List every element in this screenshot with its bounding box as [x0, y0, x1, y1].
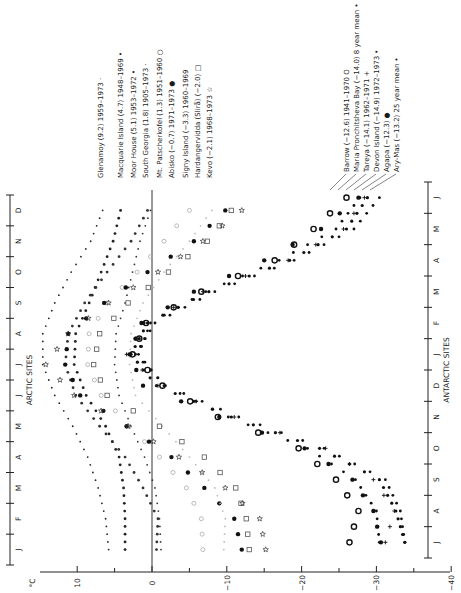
arctic-month-label: S [14, 300, 23, 305]
series-agapa [127, 195, 383, 544]
legend-item-antarctic: Ary-Mas (−13.2) 25 year mean • [393, 57, 401, 172]
arctic-month-label: J [14, 394, 23, 397]
x-tick-label: −30 [372, 575, 381, 591]
antarctic-month-label: D [432, 383, 441, 389]
legend-pointer [338, 174, 356, 190]
antarctic-month-label: A [432, 257, 441, 263]
antarctic-axis-title: ANTARCTIC SITES [442, 337, 451, 403]
arctic-month-label: N [14, 238, 23, 244]
arctic-month-label: F [14, 517, 23, 521]
antarctic-month-label: A [432, 508, 441, 514]
arctic-month-label: J [14, 548, 23, 551]
legend-item-antarctic: Maria Pronchitsheva Bay (−14.0) 8 year m… [353, 3, 361, 172]
series-tareya [125, 196, 397, 545]
arctic-month-label: J [14, 363, 23, 366]
legend-pointer [354, 174, 376, 190]
arctic-month-label: A [14, 330, 23, 336]
series-moor-house [64, 209, 160, 551]
arctic-axis-title: ARCTIC SITES [25, 354, 34, 405]
temperature-chart: 100−10−20−30−40°CJFMAMJJASONDARCTIC SITE… [0, 0, 461, 593]
x-tick-label: −10 [223, 575, 232, 591]
legend-item-arctic: South Georgia (1.8) 1905–1973 · [142, 63, 150, 178]
legend-item-antarctic: Barrow (−12.6) 1941–1970 O [343, 69, 351, 172]
antarctic-month-label: F [432, 321, 441, 325]
series-maria-pronchitsheva-bay [137, 196, 381, 543]
unit-label: °C [28, 579, 37, 588]
antarctic-month-label: M [432, 226, 441, 232]
legend-item-arctic: Signy Island (−3.3) 1960–1969 [182, 70, 190, 179]
antarctic-month-label: S [432, 477, 441, 482]
arctic-month-label: M [14, 485, 23, 491]
x-tick-label: −40 [447, 575, 456, 591]
antarctic-month-label: J [432, 353, 441, 356]
arctic-month-label: O [14, 269, 23, 275]
x-tick-label: −20 [298, 575, 307, 591]
antarctic-month-label: M [432, 288, 441, 294]
series-signy-island [129, 210, 227, 551]
series-devon-island [134, 196, 406, 543]
series-hardangervidda-slir- [91, 208, 251, 552]
legend-item-arctic: Hardangervidda (Slirå) (−2.0) □ [193, 65, 202, 178]
series-abisko [63, 208, 244, 552]
arctic-month-label: A [14, 454, 23, 460]
legend-item-antarctic: Agapa (−12.3) ● [383, 112, 391, 172]
legend-item-antarctic: Tareya (−14.1) 1962–1971 + [363, 70, 371, 173]
series-ary-mas [129, 196, 406, 544]
legend-pointer [346, 174, 366, 190]
series-mt-patscherkofel [86, 208, 205, 551]
arctic-month-label: D [14, 207, 23, 213]
legend-item-arctic: Macquarie Island (4.7) 1948–1969 • [117, 52, 125, 178]
plot-area [42, 195, 407, 552]
series-macquarie-island [73, 209, 127, 551]
antarctic-month-label: J [432, 197, 441, 200]
legend-item-arctic: Moor House (5.1) 1953–1972 • [130, 70, 138, 178]
legend-item-antarctic: Devon Island (−14.9) 1972–1973 • [373, 50, 381, 172]
antarctic-month-label: O [432, 445, 441, 451]
legend-item-arctic: Glenamoy (9.2) 1959–1973 · [97, 78, 105, 178]
antarctic-month-label: J [432, 541, 441, 544]
series-glenamoy [42, 210, 110, 551]
series-south-georgia [114, 210, 162, 551]
legend-item-arctic: Mt. Patscherkofel (1.3) 1951–1960 ○ [156, 49, 164, 178]
series-barrow [130, 195, 361, 545]
legend-item-arctic: Abisko (−0.7) 1971–1973 ● [168, 81, 176, 178]
legend-item-arctic: Kevo (−2.1) 1968–1973 ☆ [206, 86, 214, 178]
series-kevo [43, 208, 268, 552]
x-tick-label: 10 [73, 578, 82, 588]
antarctic-month-label: N [432, 414, 441, 420]
legend-pointer [330, 174, 346, 190]
x-tick-label: 0 [148, 580, 157, 585]
arctic-month-label: M [14, 423, 23, 429]
legend: Glenamoy (9.2) 1959–1973 ·Macquarie Isla… [97, 3, 401, 190]
